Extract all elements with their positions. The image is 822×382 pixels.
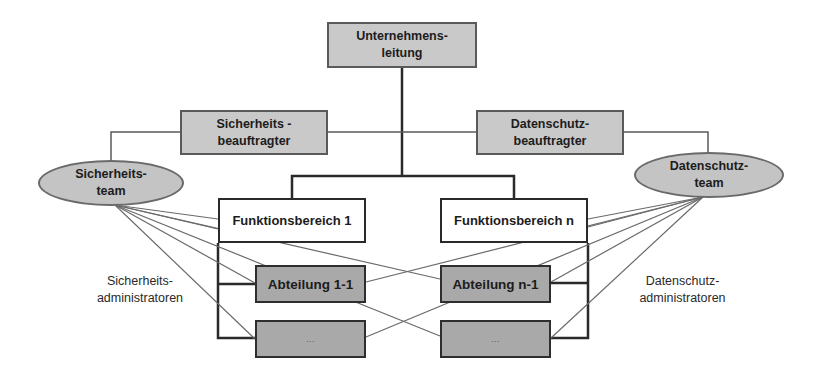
- privacy-officer-box: Datenschutz- beauftragter: [476, 110, 624, 155]
- function-area-1-label: Funktionsbereich 1: [232, 212, 351, 229]
- department-n-more-box: ...: [440, 320, 551, 358]
- security-officer-line1: Sicherheits -: [216, 116, 291, 133]
- privacy-team-line2: team: [694, 175, 723, 192]
- management-label-line1: Unternehmens-: [356, 28, 448, 45]
- department-n-more-label: ...: [491, 331, 500, 348]
- privacy-admins-label: Datenschutz- administratoren: [620, 273, 745, 307]
- privacy-officer-line2: beauftragter: [514, 133, 587, 150]
- privacy-admins-line1: Datenschutz-: [620, 273, 745, 290]
- security-admins-label: Sicherheits- administratoren: [80, 273, 200, 307]
- privacy-officer-line1: Datenschutz-: [511, 116, 589, 133]
- function-area-n-label: Funktionsbereich n: [454, 212, 574, 229]
- department-1-more-label: ...: [306, 331, 315, 348]
- security-officer-box: Sicherheits - beauftragter: [180, 110, 328, 155]
- privacy-admins-line2: administratoren: [620, 290, 745, 307]
- security-team-line2: team: [96, 183, 125, 200]
- function-area-n-box: Funktionsbereich n: [440, 198, 588, 243]
- management-box: Unternehmens- leitung: [327, 22, 477, 68]
- department-1-1-box: Abteilung 1-1: [255, 265, 366, 303]
- privacy-team-line1: Datenschutz-: [670, 158, 748, 175]
- security-admins-line2: administratoren: [80, 290, 200, 307]
- department-1-more-box: ...: [255, 320, 366, 358]
- security-team-line1: Sicherheits-: [75, 166, 147, 183]
- security-officer-line2: beauftragter: [218, 133, 291, 150]
- department-n-1-box: Abteilung n-1: [440, 265, 551, 303]
- security-team-ellipse: Sicherheits- team: [38, 160, 184, 206]
- management-label-line2: leitung: [382, 45, 423, 62]
- org-chart-diagram: Unternehmens- leitung Sicherheits - beau…: [0, 0, 822, 382]
- department-1-1-label: Abteilung 1-1: [268, 276, 354, 293]
- privacy-team-ellipse: Datenschutz- team: [634, 152, 784, 198]
- security-admins-line1: Sicherheits-: [80, 273, 200, 290]
- function-area-1-box: Funktionsbereich 1: [218, 198, 366, 243]
- department-n-1-label: Abteilung n-1: [452, 276, 538, 293]
